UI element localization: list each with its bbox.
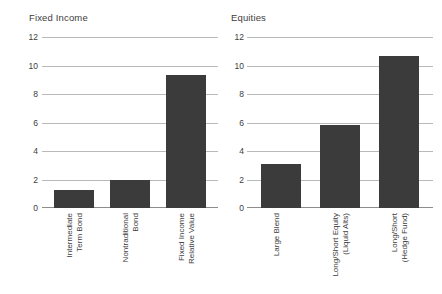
- y-tick-0: 0: [33, 204, 38, 213]
- y-tick-2-right: 2: [239, 175, 244, 184]
- category-label-line1: Fixed Income: [177, 213, 187, 291]
- bar-large-blend: [261, 164, 301, 208]
- y-tick-10: 10: [29, 61, 38, 70]
- y-tick-8-right: 8: [239, 90, 244, 99]
- y-axis-ticklabels-right: 12 10 8 6 4 2 0: [222, 0, 244, 294]
- y-tick-10-right: 10: [235, 61, 244, 70]
- bar-fixed-income-relative-value: [166, 75, 206, 208]
- category-labels-fixed-income: Intermediate Term Bond Nontraditional Bo…: [42, 213, 218, 291]
- bar-chart-figure: Fixed Income Return (%) 12 10 8 6 4 2 0: [0, 0, 442, 294]
- category-label-line1: Intermediate: [65, 213, 75, 291]
- category-label-line1: Long/Short: [390, 213, 400, 291]
- y-tick-4-right: 4: [239, 147, 244, 156]
- bar-long-short-hedge-fund: [379, 56, 419, 208]
- y-tick-0-right: 0: [239, 204, 244, 213]
- y-tick-4: 4: [33, 147, 38, 156]
- category-label-line2: (Hedge Fund): [400, 213, 410, 291]
- category-labels-equities: Large Blend Long/Short Equity (Liquid Al…: [247, 213, 433, 291]
- y-tick-6-right: 6: [239, 118, 244, 127]
- y-tick-8: 8: [33, 90, 38, 99]
- bar-long-short-equity-liquid-alts: [320, 125, 360, 208]
- y-tick-12: 12: [29, 33, 38, 42]
- bar-intermediate-term-bond: [54, 190, 94, 208]
- category-label-line1: Nontraditional: [121, 213, 131, 291]
- category-label-line2: Bond: [131, 213, 141, 291]
- y-tick-2: 2: [33, 175, 38, 184]
- category-label-line1: Large Blend: [272, 213, 282, 291]
- y-axis-ticklabels-left: 12 10 8 6 4 2 0: [16, 0, 38, 294]
- bars-fixed-income: [42, 37, 218, 208]
- category-label-line2: (Liquid Alts): [341, 213, 351, 291]
- category-label-line1: Long/Short Equity: [331, 213, 341, 291]
- bar-nontraditional-bond: [110, 180, 150, 209]
- panel-fixed-income: Fixed Income Return (%) 12 10 8 6 4 2 0: [0, 0, 221, 294]
- bars-equities: [247, 37, 433, 208]
- plot-area-fixed-income: [42, 37, 218, 208]
- category-label-line2: Relative Value: [187, 213, 197, 291]
- y-tick-12-right: 12: [235, 33, 244, 42]
- plot-area-equities: [247, 37, 433, 208]
- category-label-line2: Term Bond: [75, 213, 85, 291]
- y-tick-6: 6: [33, 118, 38, 127]
